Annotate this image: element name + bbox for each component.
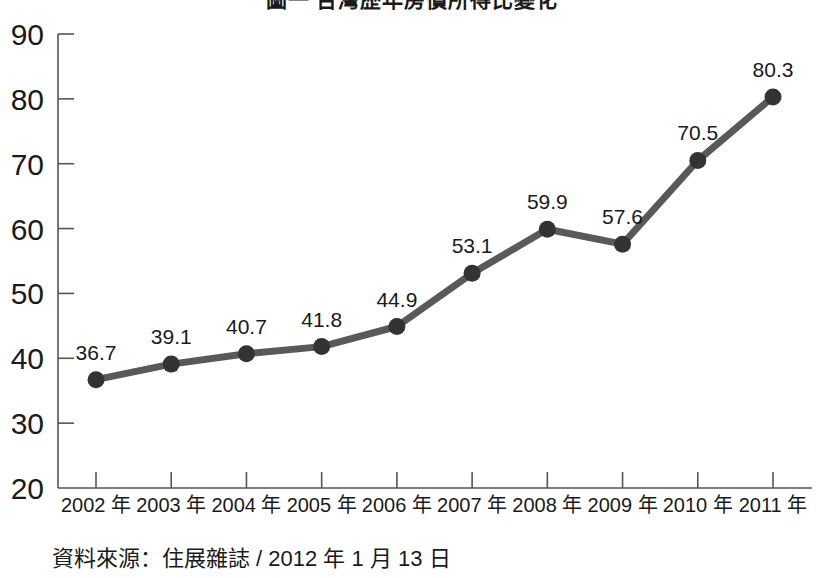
- chart-axes: [58, 34, 812, 488]
- data-series-line: [96, 97, 773, 380]
- x-axis-tick-label: 2011 年: [739, 494, 808, 516]
- data-point-marker: [689, 152, 706, 169]
- y-axis-tick-label: 70: [11, 148, 44, 181]
- x-axis-tick-label: 2010 年: [663, 494, 733, 516]
- data-point-label: 39.1: [151, 325, 192, 348]
- data-point-label: 36.7: [76, 341, 117, 364]
- y-axis-tick-label: 90: [11, 18, 44, 51]
- y-axis-tick-label: 60: [11, 213, 44, 246]
- y-axis-tick-label: 40: [11, 342, 44, 375]
- data-point-label: 53.1: [452, 234, 493, 257]
- data-point-marker: [539, 221, 556, 238]
- data-point-marker: [238, 345, 255, 362]
- x-axis-tick-label: 2006 年: [362, 494, 432, 516]
- chart-container: 圖一 台灣歷年房價所得比變化 2030405060708090 2002 年20…: [0, 0, 824, 578]
- data-point-marker: [765, 88, 782, 105]
- data-point-marker: [88, 371, 105, 388]
- x-axis-tick-label: 2002 年: [61, 494, 131, 516]
- x-axis-tick-label: 2008 年: [512, 494, 582, 516]
- data-point-label: 70.5: [677, 121, 718, 144]
- series-polyline: [96, 97, 773, 380]
- data-point-label: 41.8: [301, 308, 342, 331]
- line-chart-plot: 2030405060708090 2002 年2003 年2004 年2005 …: [0, 0, 824, 578]
- x-axis-tick-label: 2009 年: [588, 494, 658, 516]
- data-point-marker: [313, 338, 330, 355]
- data-point-label: 80.3: [753, 58, 794, 81]
- data-point-marker: [464, 265, 481, 282]
- y-axis-tick-label: 50: [11, 277, 44, 310]
- y-axis-tick-label: 30: [11, 407, 44, 440]
- y-axis-tick-label: 20: [11, 472, 44, 505]
- data-point-marker: [163, 356, 180, 373]
- data-point-labels: 36.739.140.741.844.953.159.957.670.580.3: [76, 58, 794, 364]
- data-point-label: 44.9: [376, 288, 417, 311]
- data-point-label: 57.6: [602, 205, 643, 228]
- x-axis-tick-label: 2007 年: [437, 494, 507, 516]
- x-axis-tick-labels: 2002 年2003 年2004 年2005 年2006 年2007 年2008…: [61, 494, 807, 516]
- y-axis-tick-label: 80: [11, 83, 44, 116]
- data-point-marker: [614, 236, 631, 253]
- x-axis-tick-label: 2004 年: [211, 494, 281, 516]
- y-axis-tick-labels: 2030405060708090: [11, 18, 44, 505]
- data-point-marker: [388, 318, 405, 335]
- source-note: 資料來源：住展雜誌 / 2012 年 1 月 13 日: [52, 540, 451, 572]
- data-point-label: 40.7: [226, 315, 267, 338]
- data-point-label: 59.9: [527, 190, 568, 213]
- x-axis-tick-label: 2003 年: [136, 494, 206, 516]
- x-axis-tick-label: 2005 年: [287, 494, 357, 516]
